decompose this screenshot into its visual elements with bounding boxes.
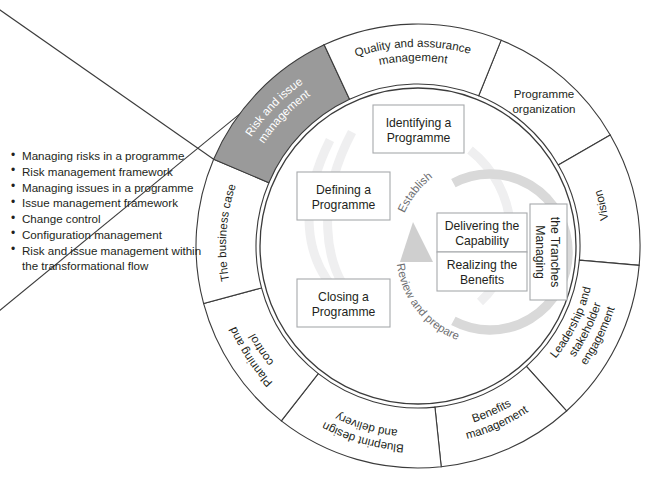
ring-segment-the-business-case[interactable] (196, 159, 269, 303)
process-box-label-delivering-the-capability: Delivering the (445, 219, 520, 233)
process-box-label-closing-a-programme: Closing a (318, 290, 369, 304)
process-box-label-defining-a-programme: Programme (312, 198, 376, 212)
callout-item: Configuration management (10, 227, 206, 242)
callout-item: Risk management framework (10, 164, 206, 179)
process-box-label-identifying-a-programme: Identifying a (386, 116, 452, 130)
ring-label-programme-organization: organization (512, 102, 575, 115)
process-box-label-managing-the-tranches: the Tranches (548, 217, 562, 287)
callout-item: Managing issues in a programme (10, 180, 206, 195)
process-box-label-realizing-the-benefits: Realizing the (447, 258, 518, 272)
callout-item: Change control (10, 211, 206, 226)
process-box-label-closing-a-programme: Programme (312, 305, 376, 319)
callout-item: Managing risks in a programme (10, 148, 206, 163)
process-box-label-realizing-the-benefits: Benefits (460, 273, 504, 287)
diagram-canvas: ProgrammeorganizationVisionLeadership an… (0, 0, 650, 488)
ring-label-programme-organization: Programme (514, 87, 575, 100)
process-box-label-managing-the-tranches: Managing (533, 225, 547, 279)
callout-list: Managing risks in a programmeRisk manage… (10, 148, 206, 273)
process-box-label-identifying-a-programme: Programme (387, 131, 451, 145)
callout-leader-line-1 (0, 3, 214, 159)
callout-item: Risk and issue management within the tra… (10, 243, 206, 274)
process-box-label-defining-a-programme: Defining a (316, 183, 371, 197)
process-box-label-delivering-the-capability: Capability (455, 234, 509, 248)
risk-and-issue-management-callout: Managing risks in a programmeRisk manage… (10, 148, 206, 274)
callout-item: Issue management framework (10, 195, 206, 210)
